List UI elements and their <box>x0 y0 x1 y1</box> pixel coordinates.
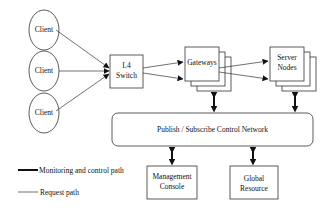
request-edge-client3 <box>56 74 109 111</box>
request-edge-l4-gw-1 <box>143 62 183 68</box>
request-edge-l4-gw-2 <box>143 73 183 79</box>
gateways-label: Gateways <box>184 58 220 67</box>
legend-request-label: Request path <box>40 188 79 197</box>
request-edge-client1 <box>56 30 109 68</box>
legend-monitoring-label: Monitoring and control path <box>39 166 124 175</box>
client-label-1: Client <box>29 25 59 34</box>
management-console-label-line1: Management <box>147 172 197 181</box>
l4-switch-label-line2: Switch <box>110 71 143 80</box>
client-label-2: Client <box>29 66 59 75</box>
global-resource-label-line1: Global <box>230 174 278 183</box>
l4-switch-label-line1: L4 <box>110 61 143 70</box>
global-resource-label-line2: Resource <box>230 184 278 193</box>
architecture-diagram: Client Client Client L4 Switch Gateways … <box>0 0 330 215</box>
management-console-label-line2: Console <box>147 182 197 191</box>
server-nodes-label-line2: Nodes <box>270 63 304 72</box>
server-nodes-label-line1: Server <box>270 53 304 62</box>
client-label-3: Client <box>29 108 59 117</box>
pubsub-label: Publish / Subscribe Control Network <box>112 125 313 134</box>
